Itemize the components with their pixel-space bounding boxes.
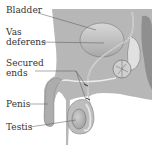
label-secured-ends: Securedends (6, 58, 44, 78)
bladder-organ (80, 23, 124, 57)
label-testis: Testis (6, 122, 32, 132)
label-penis: Penis (6, 99, 30, 109)
testis-organ (72, 109, 86, 129)
label-bladder: Bladder (6, 5, 42, 15)
label-vas-deferens: Vasdeferens (6, 27, 46, 47)
vasectomy-diagram: Bladder Vasdeferens Securedends Penis Te… (0, 0, 152, 145)
